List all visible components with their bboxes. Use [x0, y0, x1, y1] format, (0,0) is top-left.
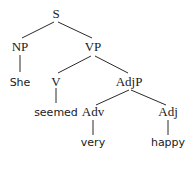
- edge-s-vp: [58, 22, 92, 38]
- edge-adjp-adj: [131, 90, 166, 105]
- node-adj: Adj: [158, 104, 178, 119]
- leaf-she: She: [10, 76, 31, 89]
- edge-s-np: [22, 22, 54, 38]
- edge-vp-adjp: [95, 56, 128, 73]
- edge-vp-v: [58, 56, 91, 73]
- edge-adjp-adv: [96, 90, 129, 105]
- leaf-seemed: seemed: [34, 106, 78, 119]
- node-v: V: [51, 74, 61, 89]
- node-adv: Adv: [82, 104, 105, 119]
- leaf-happy: happy: [151, 136, 186, 149]
- node-vp: VP: [85, 39, 102, 54]
- node-adjp: AdjP: [116, 74, 143, 89]
- leaf-very: very: [81, 136, 106, 149]
- syntax-tree: S NP VP She V AdjP seemed Adv Adj very h…: [0, 0, 190, 169]
- node-np: NP: [12, 39, 29, 54]
- node-s: S: [52, 6, 59, 21]
